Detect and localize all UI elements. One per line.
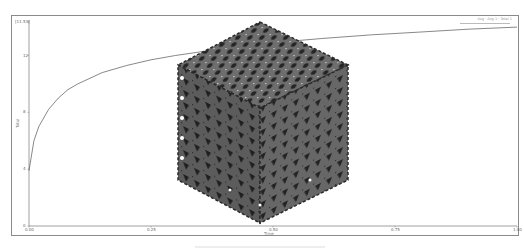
y-tick-label: [11.53] xyxy=(15,19,30,24)
x-tick-label: 1.00 xyxy=(513,227,522,232)
y-axis-label: Total xyxy=(15,119,20,128)
footer-bar xyxy=(195,246,325,248)
y-tick-label: 4 xyxy=(23,166,26,171)
legend: Avg · Avg 1 · Total 1 xyxy=(478,17,513,21)
x-axis-label: Time xyxy=(264,231,274,236)
x-tick-label: 0.00 xyxy=(25,227,34,232)
lattice-cube-render xyxy=(170,20,350,225)
legend-underline xyxy=(460,23,510,24)
y-tick-label: 12 xyxy=(23,53,28,58)
x-tick-label: 0.75 xyxy=(391,227,400,232)
x-tick-label: 0.25 xyxy=(147,227,156,232)
y-tick-label: 8 xyxy=(23,109,26,114)
